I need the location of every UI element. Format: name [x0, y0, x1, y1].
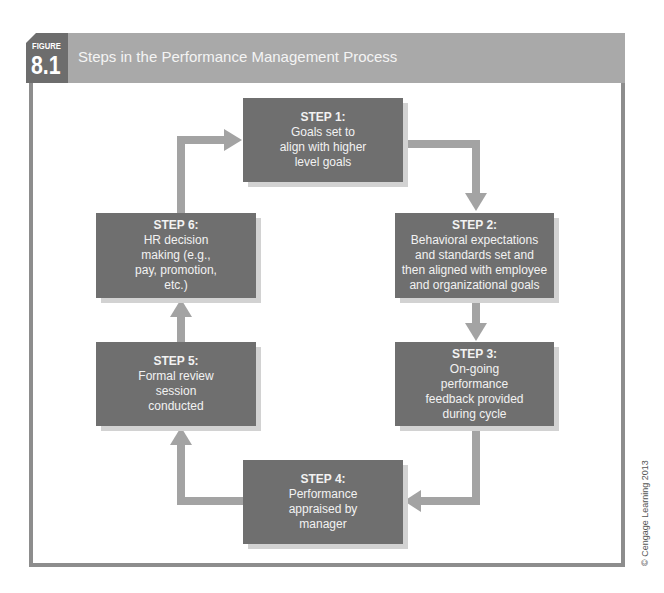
step-1-box: STEP 1: Goals set to align with higher l…: [243, 98, 403, 182]
step-3-title: STEP 3:: [452, 347, 497, 362]
step-1-title: STEP 1:: [300, 110, 345, 125]
arrow-step1-to-step2: [403, 140, 487, 211]
step-6-description: HR decision making (e.g., pay, promotion…: [135, 233, 217, 293]
step-4-title: STEP 4:: [300, 472, 345, 487]
step-4-box: STEP 4: Performance appraised by manager: [243, 460, 403, 544]
arrow-step2-to-step3: [465, 298, 487, 341]
step-3-box: STEP 3: On-going performance feedback pr…: [395, 342, 554, 426]
step-5-description: Formal review session conducted: [138, 369, 213, 414]
step-2-title: STEP 2:: [452, 218, 497, 233]
step-5-title: STEP 5:: [153, 354, 198, 369]
step-1-description: Goals set to align with higher level goa…: [280, 125, 367, 170]
copyright-credit: © Cengage Learning 2013: [640, 460, 650, 566]
step-3-description: On-going performance feedback provided d…: [425, 362, 523, 422]
step-5-box: STEP 5: Formal review session conducted: [96, 342, 256, 426]
arrow-step5-to-step6: [170, 299, 192, 342]
arrow-step3-to-step4: [404, 426, 480, 512]
arrow-step6-to-step1: [177, 129, 242, 213]
step-2-description: Behavioral expectations and standards se…: [402, 233, 547, 293]
step-2-box: STEP 2: Behavioral expectations and stan…: [395, 213, 554, 298]
step-6-title: STEP 6:: [153, 218, 198, 233]
step-4-description: Performance appraised by manager: [289, 487, 358, 532]
step-6-box: STEP 6: HR decision making (e.g., pay, p…: [96, 213, 256, 298]
arrow-step4-to-step5: [170, 427, 243, 505]
